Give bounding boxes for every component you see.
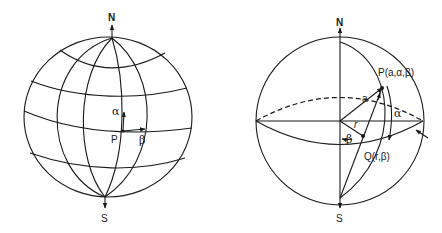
radius-a-label: a [362,93,368,104]
point-q-dot [361,134,365,138]
right-sphere: N S P(a,α,β) Q(r,β) a r α β [256,17,428,224]
left-north-label: N [108,12,115,23]
point-q-label: Q(r,β) [364,151,390,162]
left-parallels [24,50,192,168]
left-point-label: P [111,134,118,145]
meridian-p [340,42,385,198]
left-south-label: S [101,213,108,224]
right-south-label: S [336,213,343,224]
beta-arrow-icon [123,129,145,131]
right-alpha-label: α [394,107,402,120]
right-beta-label: β [346,133,352,146]
alpha-arrow-icon [123,112,124,131]
point-p-label: P(a,α,β) [378,67,414,78]
point-p-dot [380,86,384,90]
left-sphere: N S P α β [24,12,192,224]
left-beta-label: β [139,134,145,147]
alpha-arc-icon [387,86,392,140]
point-p-dot [121,129,124,132]
left-meridians [57,38,147,197]
right-north-label: N [336,17,343,28]
left-sphere-outline [24,37,192,197]
diagram-canvas: N S P α β N S P(a,α,β) [0,0,442,233]
left-alpha-label: α [112,105,120,118]
